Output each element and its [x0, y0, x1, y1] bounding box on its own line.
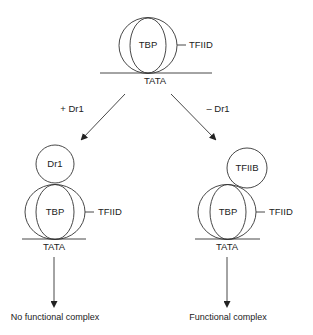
- tata-label: TATA: [43, 241, 66, 252]
- tata-label: TATA: [216, 241, 239, 252]
- minus-dr1-arrow: [171, 94, 215, 139]
- tbp-label: TBP: [46, 206, 64, 217]
- tata-label: TATA: [144, 75, 167, 86]
- tfiib-label: TFIIB: [235, 162, 258, 173]
- outcome-label: Functional complex: [189, 312, 267, 322]
- right-complex: TFIIB TBP TFIID TATA Functional complex: [189, 148, 293, 322]
- tfiid-label: TFIID: [269, 206, 293, 217]
- tfiid-dr1-diagram: TBP TFIID TATA + Dr1 – Dr1 Dr1 TBP TFIID…: [0, 0, 313, 335]
- plus-dr1-arrow: [82, 94, 125, 139]
- minus-dr1-label: – Dr1: [206, 103, 229, 114]
- tbp-label: TBP: [139, 39, 157, 50]
- dr1-label: Dr1: [47, 158, 62, 169]
- tbp-label: TBP: [219, 206, 237, 217]
- outcome-label: No functional complex: [11, 312, 100, 322]
- tfiid-label: TFIID: [189, 39, 213, 50]
- plus-dr1-label: + Dr1: [60, 103, 84, 114]
- tfiid-label: TFIID: [98, 206, 122, 217]
- branch-arrows: + Dr1 – Dr1: [60, 94, 229, 139]
- left-complex: Dr1 TBP TFIID TATA No functional complex: [11, 145, 122, 322]
- top-complex: TBP TFIID TATA: [100, 18, 213, 87]
